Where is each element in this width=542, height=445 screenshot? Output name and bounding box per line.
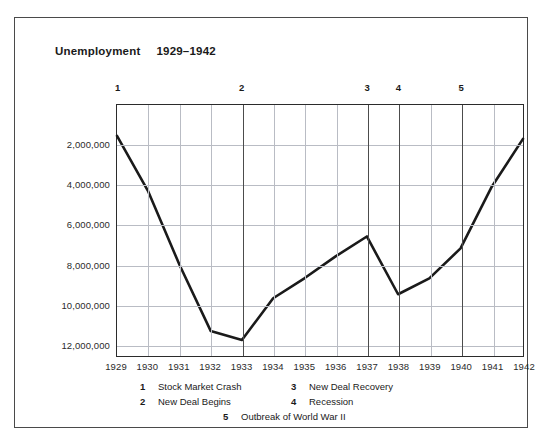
chart-title-text: Unemployment xyxy=(55,45,140,57)
annotation-marker-5: 5 xyxy=(459,82,464,93)
legend-label: Stock Market Crash xyxy=(158,381,241,392)
legend-label: New Deal Begins xyxy=(158,396,231,407)
x-axis-tick-label: 1929 xyxy=(105,361,127,372)
legend-label: Outbreak of World War II xyxy=(241,411,346,422)
legend-number: 4 xyxy=(291,396,296,407)
x-axis-tick-label: 1942 xyxy=(513,361,535,372)
annotation-gridline xyxy=(368,105,369,356)
annotation-markers-row: 12345 xyxy=(116,82,524,100)
chart-title-range: 1929–1942 xyxy=(156,45,215,57)
x-axis-tick-label: 1940 xyxy=(450,361,472,372)
gridline-vertical xyxy=(148,105,149,356)
x-axis-tick-label: 1930 xyxy=(137,361,159,372)
y-axis-tick-label: 4,000,000 xyxy=(67,179,110,190)
gridline-vertical xyxy=(337,105,338,356)
x-axis-tick-label: 1934 xyxy=(262,361,284,372)
gridline-vertical xyxy=(494,105,495,356)
gridline-vertical xyxy=(431,105,432,356)
x-axis-labels: 1929193019311932193319341935193619371938… xyxy=(116,361,524,377)
annotation-gridline xyxy=(243,105,244,356)
gridline-vertical xyxy=(305,105,306,356)
x-axis-tick-label: 1931 xyxy=(168,361,190,372)
y-axis-tick-label: 8,000,000 xyxy=(67,259,110,270)
annotation-marker-4: 4 xyxy=(396,82,401,93)
plot-area xyxy=(116,104,524,357)
figure-frame: Unemployment1929–1942 12345 2,000,0004,0… xyxy=(14,17,528,428)
legend-row: 2 New Deal Begins 4 Recession xyxy=(55,396,495,411)
y-axis-tick-label: 10,000,000 xyxy=(61,299,110,310)
annotation-marker-2: 2 xyxy=(239,82,244,93)
gridline-vertical xyxy=(211,105,212,356)
legend-number: 3 xyxy=(291,381,296,392)
annotation-marker-3: 3 xyxy=(364,82,369,93)
y-axis-tick-label: 6,000,000 xyxy=(67,219,110,230)
x-axis-tick-label: 1932 xyxy=(199,361,221,372)
x-axis-tick-label: 1933 xyxy=(231,361,253,372)
legend-number: 2 xyxy=(140,396,145,407)
annotation-gridline xyxy=(462,105,463,356)
x-axis-tick-label: 1941 xyxy=(482,361,504,372)
legend-number: 5 xyxy=(223,411,228,422)
annotation-marker-1: 1 xyxy=(115,82,120,93)
legend-label: Recession xyxy=(309,396,353,407)
x-axis-tick-label: 1936 xyxy=(325,361,347,372)
x-axis-tick-label: 1938 xyxy=(388,361,410,372)
legend: 1 Stock Market Crash 3 New Deal Recovery… xyxy=(55,381,495,426)
y-axis-tick-label: 2,000,000 xyxy=(67,139,110,150)
annotation-gridline xyxy=(399,105,400,356)
x-axis-tick-label: 1935 xyxy=(294,361,316,372)
page-title: Unemployment1929–1942 xyxy=(55,45,216,57)
legend-row: 1 Stock Market Crash 3 New Deal Recovery xyxy=(55,381,495,396)
y-axis-tick-label: 12,000,000 xyxy=(61,339,110,350)
gridline-vertical xyxy=(274,105,275,356)
gridline-vertical xyxy=(180,105,181,356)
legend-label: New Deal Recovery xyxy=(309,381,393,392)
x-axis-tick-label: 1937 xyxy=(356,361,378,372)
x-axis-tick-label: 1939 xyxy=(419,361,441,372)
y-axis-labels: 2,000,0004,000,0006,000,0008,000,00010,0… xyxy=(43,104,110,357)
legend-number: 1 xyxy=(140,381,145,392)
legend-row: 5 Outbreak of World War II xyxy=(55,411,495,426)
